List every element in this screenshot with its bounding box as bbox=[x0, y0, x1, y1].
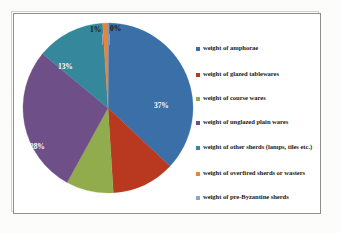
legend-swatch-icon bbox=[196, 47, 200, 51]
legend-item[interactable]: weight of amphorae bbox=[196, 44, 320, 52]
chart-frame: 37% 12% 9% 28% 13% 1% 0% weight of ampho… bbox=[13, 13, 321, 214]
slice-label-course: 9% bbox=[79, 200, 90, 208]
slice-label-overfired: 1% bbox=[90, 26, 101, 34]
pie-plot-area: 37% 12% 9% 28% 13% 1% 0% bbox=[14, 14, 194, 213]
legend-item[interactable]: weight of unglazed plain wares bbox=[196, 118, 320, 126]
chart-legend: weight of amphoraeweight of glazed table… bbox=[196, 18, 320, 210]
legend-swatch-icon bbox=[196, 146, 200, 150]
legend-item-label: weight of other sherds (lamps, tiles etc… bbox=[203, 143, 312, 151]
legend-item[interactable]: weight of course wares bbox=[196, 94, 320, 102]
legend-item-label: weight of glazed tablewares bbox=[203, 70, 279, 78]
legend-item-label: weight of amphorae bbox=[203, 44, 258, 52]
leader-line-overfired bbox=[102, 34, 103, 45]
slice-label-other-sherds: 13% bbox=[58, 63, 73, 71]
legend-item[interactable]: weight of other sherds (lamps, tiles etc… bbox=[196, 143, 320, 151]
legend-item-label: weight of overfired sherds or wasters bbox=[203, 169, 305, 177]
legend-item-label: weight of unglazed plain wares bbox=[203, 118, 288, 126]
slice-label-prebyzantine: 0% bbox=[110, 25, 121, 33]
legend-swatch-icon bbox=[196, 196, 200, 200]
legend-item[interactable]: weight of overfired sherds or wasters bbox=[196, 169, 320, 177]
legend-swatch-icon bbox=[196, 172, 200, 176]
leader-line-prebyzantine bbox=[109, 34, 110, 45]
slice-label-amphorae: 37% bbox=[154, 102, 169, 110]
legend-swatch-icon bbox=[196, 73, 200, 77]
slice-label-unglazed: 28% bbox=[30, 143, 45, 151]
legend-item-label: weight of pre-Byzantine sherds bbox=[203, 193, 289, 201]
legend-item[interactable]: weight of glazed tablewares bbox=[196, 70, 320, 78]
slice-label-glazed: 12% bbox=[123, 194, 138, 202]
legend-item[interactable]: weight of pre-Byzantine sherds bbox=[196, 193, 320, 201]
legend-swatch-icon bbox=[196, 121, 200, 125]
scanned-page: 37% 12% 9% 28% 13% 1% 0% weight of ampho… bbox=[0, 0, 341, 233]
legend-item-label: weight of course wares bbox=[203, 94, 266, 102]
legend-swatch-icon bbox=[196, 97, 200, 101]
